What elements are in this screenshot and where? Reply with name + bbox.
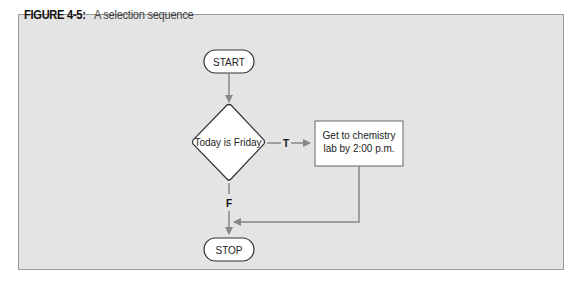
flowchart: START Today is Friday T Get to chemistry… xyxy=(0,0,580,288)
decision-diamond: Today is Friday xyxy=(193,105,265,181)
process-return-arrow xyxy=(234,166,359,222)
process-box: Get to chemistry lab by 2:00 p.m. xyxy=(315,121,403,166)
process-line-2: lab by 2:00 p.m. xyxy=(323,143,394,154)
true-label: T xyxy=(283,138,289,149)
stop-label: STOP xyxy=(215,245,242,256)
start-terminator: START xyxy=(204,50,254,73)
process-line-1: Get to chemistry xyxy=(323,130,396,141)
false-label: F xyxy=(226,198,232,209)
decision-label: Today is Friday xyxy=(194,137,261,148)
start-label: START xyxy=(213,57,245,68)
stop-terminator: STOP xyxy=(204,238,254,261)
